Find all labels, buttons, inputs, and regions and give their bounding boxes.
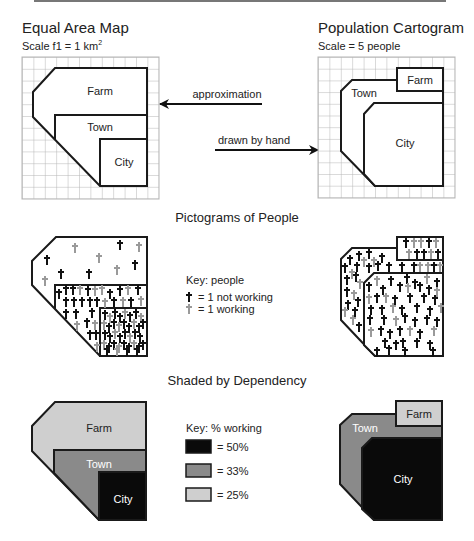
town-label: Town [351, 87, 377, 99]
shade-key-title: Key: % working [186, 422, 262, 434]
working-label: = 1 working [198, 303, 255, 315]
town-label: Town [352, 422, 378, 434]
working-person-icon [186, 304, 192, 314]
people-key-title: Key: people [186, 274, 244, 286]
not-working-person-icon [186, 292, 192, 302]
equal-area-scale: Scale f1 = 1 km2 [22, 39, 102, 52]
farm-label: Farm [87, 85, 113, 97]
cartogram-scale: Scale = 5 people [318, 40, 400, 52]
swatch-50 [186, 440, 211, 453]
farm-label: Farm [407, 74, 433, 86]
shade-key: Key: % working = 50% = 33% = 25% [186, 422, 262, 501]
people-key: Key: people = 1 not working = 1 working [186, 274, 273, 315]
pictogram-cartogram [341, 237, 444, 357]
swatch-25 [186, 488, 211, 501]
approximation-label: approximation [192, 88, 261, 100]
approximation-arrow: approximation [160, 88, 262, 104]
drawn-by-hand-arrow: drawn by hand [215, 134, 318, 150]
shade-key-50: = 50% [217, 441, 249, 453]
city-label: City [114, 493, 133, 505]
not-working-label: = 1 not working [198, 291, 273, 303]
pictogram-equal-area [32, 237, 147, 356]
shaded-cartogram: Farm Town City [340, 401, 442, 520]
farm-label: Farm [406, 408, 432, 420]
city-label: City [394, 473, 413, 485]
shaded-title: Shaded by Dependency [168, 373, 307, 388]
town-label: Town [87, 121, 113, 133]
city-label: City [396, 137, 415, 149]
diagram-canvas: Equal Area Map Scale f1 = 1 km2 Farm Tow… [0, 0, 474, 541]
equal-area-title: Equal Area Map [22, 19, 129, 36]
city-label: City [115, 156, 134, 168]
cartogram-title: Population Cartogram [318, 19, 464, 36]
shade-key-33: = 33% [217, 465, 249, 477]
shade-key-25: = 25% [217, 489, 249, 501]
town-label: Town [86, 458, 112, 470]
drawn-by-hand-label: drawn by hand [218, 134, 290, 146]
pictograms-title: Pictograms of People [175, 210, 299, 225]
population-cartogram: Population Cartogram Scale = 5 people Fa… [318, 19, 464, 198]
shaded-equal-area: Farm Town City [32, 402, 146, 520]
farm-label: Farm [86, 422, 112, 434]
equal-area-map: Equal Area Map Scale f1 = 1 km2 Farm Tow… [22, 19, 159, 199]
swatch-33 [186, 464, 211, 477]
